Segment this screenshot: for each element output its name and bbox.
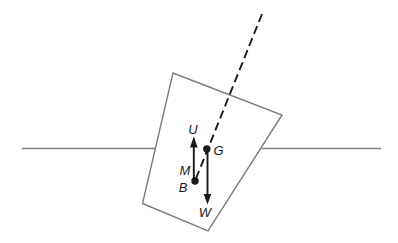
gravity-label: G (213, 143, 223, 158)
buoyancy-label: B (179, 180, 188, 195)
upthrust-label: U (188, 122, 198, 137)
metacentre-label: M (180, 163, 191, 178)
stability-diagram: U G M B W (0, 0, 398, 243)
diagram-canvas: U G M B W (0, 0, 398, 243)
gravity-point-dot (203, 145, 210, 152)
hull-outline (143, 73, 283, 231)
weight-label: W (199, 205, 213, 220)
buoyancy-point-dot (191, 177, 198, 184)
